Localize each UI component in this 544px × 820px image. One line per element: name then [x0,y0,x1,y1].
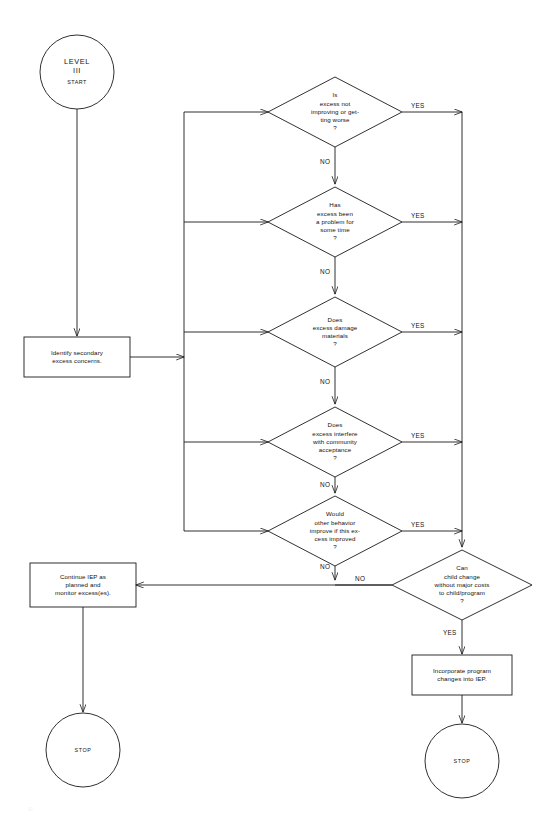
decision-5-shape [268,496,402,566]
decision-4-yes-label: YES [411,432,425,439]
decision-2-yes-label: YES [411,212,425,219]
decision-5-no-label: NO [320,563,330,570]
decision-1-no-label: NO [320,158,330,165]
decision-6-no-label: NO [355,575,365,582]
decision-4-shape [268,407,402,477]
start-terminator-shape [40,35,114,109]
decision-2-shape [268,187,402,257]
decision-6-shape [392,550,532,620]
decision-5-yes-label: YES [411,521,425,528]
decision-3-shape [268,297,402,367]
identify-box-shape [24,337,130,377]
decision-2-no-label: NO [320,268,330,275]
decision-6-yes-label: YES [443,629,457,636]
decision-3-no-label: NO [320,378,330,385]
right-stop-terminator-shape [425,724,499,798]
incorporate-box-shape [412,655,512,695]
decision-1-yes-label: YES [411,102,425,109]
decision-3-yes-label: YES [411,322,425,329]
footer-note: I0 [28,806,33,812]
decision-1-shape [268,77,402,147]
left-stop-terminator-shape [46,713,120,787]
flowchart-graphics [0,0,544,820]
continue-box-shape [30,563,136,607]
flowchart-canvas: LEVEL III START Identify secondary exces… [0,0,544,820]
decision-4-no-label: NO [320,481,330,488]
